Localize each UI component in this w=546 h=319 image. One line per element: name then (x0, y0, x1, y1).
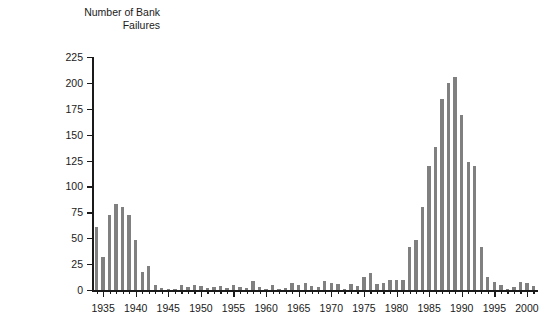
bar-1937 (114, 204, 117, 290)
x-tick-label-1940: 1940 (124, 302, 147, 314)
x-tick-1987 (442, 290, 443, 294)
bar-1987 (440, 99, 443, 290)
x-tick-1941 (142, 290, 143, 294)
x-tick-label-1980: 1980 (385, 302, 408, 314)
bar-1969 (323, 281, 326, 290)
x-tick-1939 (129, 290, 130, 294)
y-tick-150 (87, 135, 92, 136)
bar-1980 (395, 280, 398, 290)
x-tick-1966 (305, 290, 306, 294)
x-tick-1934 (97, 290, 98, 294)
x-tick-1965 (299, 290, 300, 297)
x-tick-label-1985: 1985 (417, 302, 440, 314)
x-tick-1938 (123, 290, 124, 294)
x-tick-1955 (233, 290, 234, 297)
x-tick-1950 (201, 290, 202, 297)
y-tick-225 (87, 57, 92, 58)
x-tick-1993 (481, 290, 482, 294)
x-tick-1935 (103, 290, 104, 297)
x-tick-1947 (181, 290, 182, 294)
y-tick-label-75: 75 (71, 206, 83, 218)
x-tick-label-1945: 1945 (157, 302, 180, 314)
x-tick-1952 (214, 290, 215, 294)
x-tick-1944 (162, 290, 163, 294)
bar-1981 (401, 280, 404, 290)
x-tick-1949 (194, 290, 195, 294)
bar-2000 (525, 283, 528, 290)
y-tick-75 (87, 212, 92, 213)
bar-1995 (493, 282, 496, 290)
bar-1964 (290, 283, 293, 290)
bar-1935 (101, 257, 104, 290)
x-tick-1974 (357, 290, 358, 294)
x-tick-label-1990: 1990 (450, 302, 473, 314)
x-tick-1962 (279, 290, 280, 294)
x-tick-2001 (533, 290, 534, 294)
bar-1938 (121, 207, 124, 290)
bar-1991 (467, 162, 470, 290)
x-tick-1969 (325, 290, 326, 294)
y-axis-title: Number of Bank Failures (10, 6, 160, 32)
x-tick-label-1960: 1960 (254, 302, 277, 314)
bar-1994 (486, 277, 489, 290)
x-tick-1984 (423, 290, 424, 294)
bar-1975 (362, 277, 365, 290)
x-tick-1988 (449, 290, 450, 294)
y-tick-label-25: 25 (71, 258, 83, 270)
x-tick-1977 (377, 290, 378, 294)
x-tick-1989 (455, 290, 456, 294)
y-tick-200 (87, 83, 92, 84)
bar-1936 (108, 215, 111, 290)
bar-1978 (382, 283, 385, 290)
x-tick-label-1935: 1935 (91, 302, 114, 314)
x-tick-1963 (286, 290, 287, 294)
bar-1985 (427, 166, 430, 290)
bar-1984 (421, 207, 424, 290)
bar-1970 (330, 283, 333, 290)
x-tick-1973 (351, 290, 352, 294)
x-tick-1982 (410, 290, 411, 294)
y-tick-0 (87, 290, 92, 291)
bar-1992 (473, 166, 476, 290)
x-tick-1960 (266, 290, 267, 297)
x-tick-1959 (260, 290, 261, 294)
x-tick-label-1995: 1995 (483, 302, 506, 314)
bar-1982 (408, 247, 411, 290)
x-tick-1967 (312, 290, 313, 294)
x-tick-1957 (247, 290, 248, 294)
x-tick-label-1975: 1975 (352, 302, 375, 314)
x-tick-2000 (527, 290, 528, 297)
x-tick-1970 (331, 290, 332, 297)
x-tick-1996 (501, 290, 502, 294)
x-tick-label-1970: 1970 (320, 302, 343, 314)
x-tick-1981 (403, 290, 404, 294)
x-tick-1942 (149, 290, 150, 294)
x-tick-1992 (475, 290, 476, 294)
x-tick-label-1965: 1965 (287, 302, 310, 314)
x-tick-1980 (397, 290, 398, 297)
bar-1958 (251, 281, 254, 290)
x-tick-1945 (168, 290, 169, 297)
x-tick-1968 (318, 290, 319, 294)
bar-series (92, 57, 538, 290)
y-tick-125 (87, 161, 92, 162)
plot-area: 0255075100125150175200225 19351940194519… (92, 57, 538, 290)
x-tick-1972 (344, 290, 345, 294)
x-axis-line (92, 290, 538, 292)
bar-1940 (134, 240, 137, 290)
x-tick-1998 (514, 290, 515, 294)
x-tick-1954 (227, 290, 228, 294)
x-tick-1951 (207, 290, 208, 294)
y-tick-label-50: 50 (71, 232, 83, 244)
x-tick-1953 (220, 290, 221, 294)
x-tick-1999 (520, 290, 521, 294)
x-tick-1978 (383, 290, 384, 294)
bar-1941 (141, 272, 144, 290)
x-tick-1985 (429, 290, 430, 297)
y-tick-label-0: 0 (77, 284, 83, 296)
x-tick-1995 (494, 290, 495, 297)
x-tick-1990 (462, 290, 463, 297)
x-tick-1997 (507, 290, 508, 294)
y-tick-label-100: 100 (65, 180, 83, 192)
x-tick-1964 (292, 290, 293, 294)
